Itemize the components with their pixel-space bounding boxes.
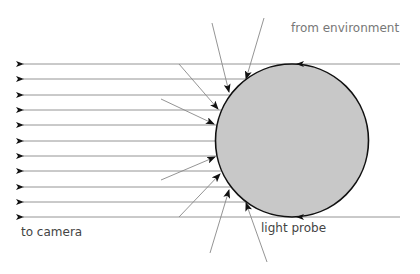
environment-ray [179, 64, 218, 109]
environment-ray [210, 190, 229, 253]
light-probe-label: light probe [261, 221, 326, 235]
environment-ray [212, 23, 229, 92]
environment-ray [161, 157, 215, 180]
environment-ray [179, 174, 220, 217]
from-environment-label: from environment [291, 21, 399, 35]
to-camera-label: to camera [21, 225, 82, 239]
environment-ray [161, 99, 214, 124]
light-probe-sphere [216, 64, 369, 217]
